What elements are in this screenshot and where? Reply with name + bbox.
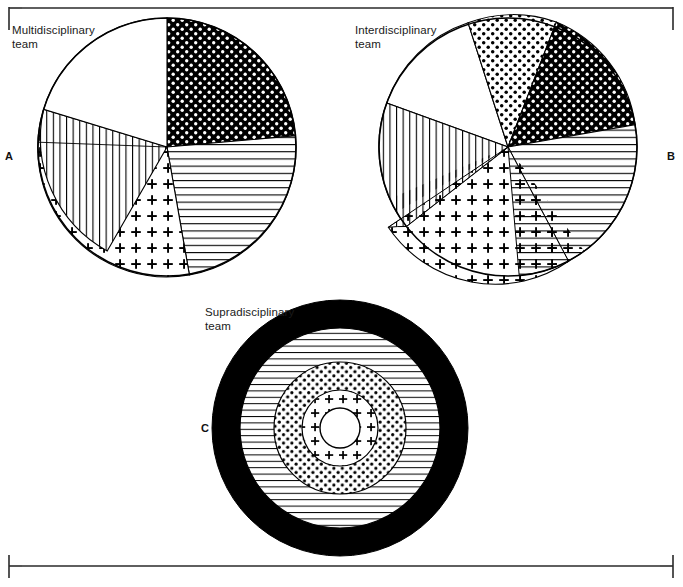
figure-container: Multidisciplinary team Interdisciplinary… bbox=[0, 0, 683, 587]
panel-letter-c: C bbox=[201, 422, 209, 434]
chart-a-title: Multidisciplinary team bbox=[12, 24, 95, 51]
pie-chart-b bbox=[379, 15, 637, 285]
crop-mark-top-right bbox=[660, 7, 673, 30]
panel-letter-b: B bbox=[667, 150, 675, 162]
panel-letter-a: A bbox=[5, 150, 13, 162]
pie-chart-a bbox=[38, 18, 296, 277]
crop-mark-bottom-right bbox=[660, 555, 673, 578]
chart-b-title: Interdisciplinary team bbox=[355, 24, 437, 51]
pie-a-slice-horizontal-lines bbox=[167, 136, 296, 275]
crop-mark-bottom-left bbox=[9, 555, 22, 578]
ring-chart-c bbox=[212, 300, 468, 556]
chart-c-title: Supradisciplinary team bbox=[205, 306, 294, 333]
pie-a-slice-black-dots bbox=[167, 18, 296, 147]
ring-c-white-core bbox=[320, 408, 360, 448]
three-panel-team-diagram bbox=[0, 0, 683, 587]
